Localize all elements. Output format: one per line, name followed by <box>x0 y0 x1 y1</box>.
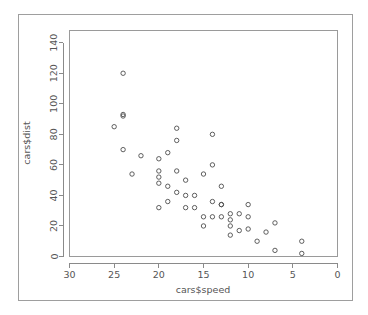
figure-root: 020406080100120140 302520151050 cars$spe… <box>0 0 368 315</box>
y-tick-label: 140 <box>49 34 60 52</box>
x-tick-label: 5 <box>290 269 296 280</box>
x-tick-label: 0 <box>334 269 340 280</box>
x-tick-label: 10 <box>242 269 254 280</box>
scatter-plot-svg: 020406080100120140 302520151050 cars$spe… <box>0 0 368 315</box>
y-tick-label: 20 <box>49 220 60 232</box>
x-tick-label: 30 <box>63 269 75 280</box>
x-tick-label: 15 <box>197 269 209 280</box>
y-axis-title: cars$dist <box>21 121 32 165</box>
x-tick-label: 25 <box>108 269 120 280</box>
x-axis-title: cars$speed <box>176 284 231 295</box>
y-tick-label: 40 <box>49 189 60 201</box>
y-tick-label: 120 <box>49 64 60 82</box>
x-tick-label: 20 <box>153 269 165 280</box>
y-tick-label: 100 <box>49 95 60 113</box>
y-tick-label: 60 <box>49 159 60 171</box>
y-tick-label: 0 <box>49 253 60 259</box>
y-tick-label: 80 <box>49 128 60 140</box>
